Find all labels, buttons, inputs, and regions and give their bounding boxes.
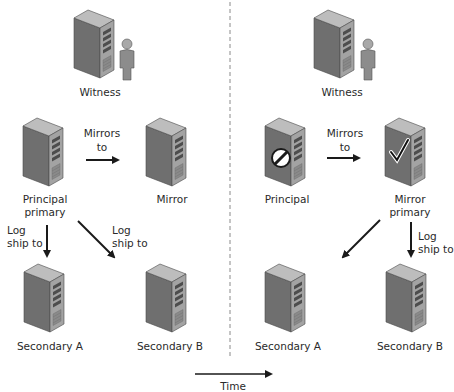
secondary-a-label: Secondary A bbox=[255, 340, 321, 353]
principal-role-label: primary bbox=[24, 206, 65, 219]
secondary-b-server-icon bbox=[146, 264, 186, 332]
principal-label: Principal bbox=[23, 193, 68, 206]
mirror-label: Mirror bbox=[395, 193, 426, 206]
mirror-ok-server-icon bbox=[385, 118, 425, 186]
mirror-label: Mirror bbox=[157, 193, 188, 206]
time-label: Time bbox=[220, 380, 246, 392]
person-icon bbox=[361, 39, 375, 80]
principal-server-icon bbox=[23, 118, 63, 186]
witness-label: Witness bbox=[321, 86, 362, 99]
mirror-server-icon bbox=[146, 118, 186, 186]
principal-failed-server-icon bbox=[265, 118, 305, 186]
log-ship-a-arrow bbox=[343, 220, 380, 257]
witness-server-icon bbox=[74, 10, 114, 78]
mirrors-to-label-line2: to bbox=[340, 141, 351, 154]
log-ship-a-label-line1: Log bbox=[7, 224, 26, 237]
log-ship-a-label-line2: ship to bbox=[7, 237, 43, 250]
secondary-a-label: Secondary A bbox=[17, 340, 83, 353]
mirror-role-label: primary bbox=[389, 206, 430, 219]
secondary-a-server-icon bbox=[265, 264, 305, 332]
mirrors-to-label-line1: Mirrors bbox=[84, 127, 120, 140]
log-ship-b-arrow bbox=[78, 221, 114, 257]
person-icon bbox=[120, 39, 134, 80]
mirrors-to-label-line2: to bbox=[97, 141, 108, 154]
log-ship-b-label-line1: Log bbox=[418, 230, 437, 243]
secondary-b-server-icon bbox=[386, 264, 426, 332]
principal-label: Principal bbox=[265, 193, 310, 206]
secondary-b-label: Secondary B bbox=[137, 340, 203, 353]
mirrors-to-label-line1: Mirrors bbox=[327, 127, 363, 140]
secondary-a-server-icon bbox=[24, 264, 64, 332]
log-ship-b-label-line2: ship to bbox=[112, 237, 148, 250]
log-ship-b-label-line2: ship to bbox=[418, 243, 454, 256]
log-ship-b-label-line1: Log bbox=[112, 224, 131, 237]
witness-server-icon bbox=[314, 10, 354, 78]
secondary-b-label: Secondary B bbox=[377, 340, 443, 353]
witness-label: Witness bbox=[79, 86, 120, 99]
